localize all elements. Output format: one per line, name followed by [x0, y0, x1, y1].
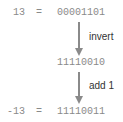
row1-label: 13	[13, 8, 25, 18]
step-add-one-label: add 1	[89, 81, 114, 91]
row1-equals: =	[36, 8, 42, 18]
row3-equals: =	[36, 107, 42, 117]
add-one-arrow-icon	[75, 72, 83, 104]
invert-arrow-icon	[75, 22, 83, 56]
row3-label: -13	[7, 107, 25, 117]
row2-bits: 11110010	[57, 58, 105, 68]
step-invert-label: invert	[89, 32, 113, 42]
row1-bits: 00001101	[57, 8, 105, 18]
row3-bits: 11110011	[57, 107, 105, 117]
